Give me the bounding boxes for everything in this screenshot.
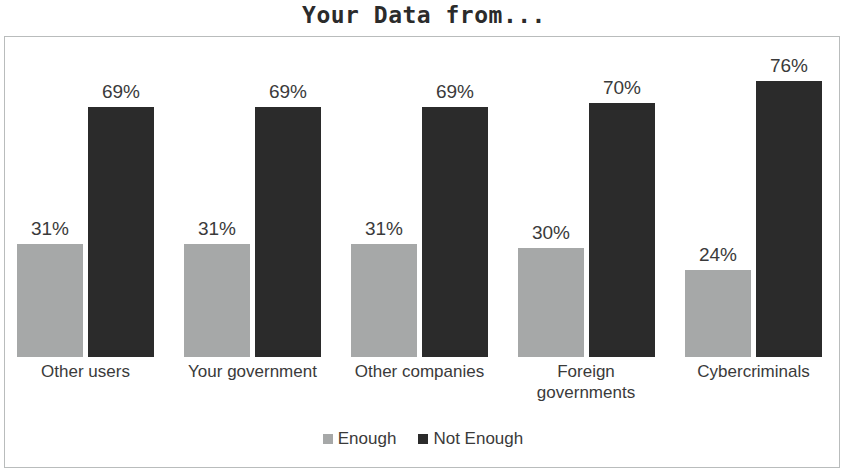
bar-rect[interactable] [756,81,822,357]
bar-rect[interactable] [422,107,488,357]
bar-rect[interactable] [88,107,154,357]
bar-value-label: 31% [170,218,264,240]
legend-label: Not Enough [433,429,523,449]
category-label: Your government [162,361,343,382]
chart-legend: Enough Not Enough [5,429,841,449]
bar-value-label: 31% [337,218,431,240]
plot-area: 31% 69% Other users 31% 69% Your governm… [5,37,841,469]
bar-rect[interactable] [351,244,417,357]
category-label: Other companies [329,361,510,382]
chart-title: Your Data from... [0,0,848,34]
bar-value-label: 69% [241,81,335,103]
bar-value-label: 69% [408,81,502,103]
bar-rect[interactable] [685,270,751,357]
legend-item-not-enough[interactable]: Not Enough [418,429,523,449]
bar-value-label: 24% [671,244,765,266]
bar-value-label: 31% [3,218,97,240]
category-label: Foreign governments [526,361,646,403]
legend-swatch-icon [418,434,428,444]
legend-item-enough[interactable]: Enough [323,429,397,449]
bar-rect[interactable] [589,103,655,357]
legend-label: Enough [338,429,397,449]
category-label: Cybercriminals [663,361,844,382]
bar-rect[interactable] [255,107,321,357]
bar-rect[interactable] [17,244,83,357]
bar-value-label: 70% [575,77,669,99]
bar-value-label: 69% [74,81,168,103]
bar-rect[interactable] [184,244,250,357]
chart-frame: 31% 69% Other users 31% 69% Your governm… [4,36,840,468]
bar-value-label: 30% [504,222,598,244]
bar-value-label: 76% [742,55,836,77]
legend-swatch-icon [323,434,333,444]
category-label: Other users [0,361,176,382]
bar-rect[interactable] [518,248,584,357]
